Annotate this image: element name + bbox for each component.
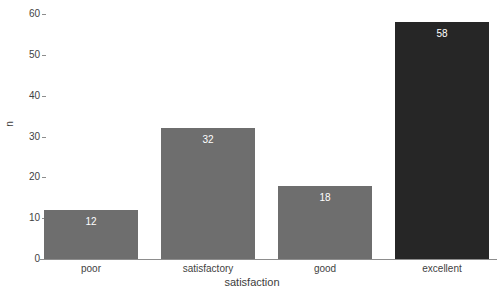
x-axis-tick-label: good <box>278 262 372 276</box>
bar-value-label: 18 <box>278 192 372 204</box>
bar[interactable]: 12 <box>44 210 138 259</box>
y-axis-tick-label: 20 <box>0 171 40 183</box>
x-axis-title: satisfaction <box>0 275 504 289</box>
x-axis-tick-label: satisfactory <box>161 262 255 276</box>
bar-value-label: 58 <box>395 28 489 40</box>
y-axis-tick-label: 60 <box>0 8 40 20</box>
x-axis-tick-label: excellent <box>395 262 489 276</box>
bar-value-label: 32 <box>161 134 255 146</box>
bar-value-label: 12 <box>44 216 138 228</box>
x-axis-tick-label: poor <box>44 262 138 276</box>
bar[interactable]: 18 <box>278 186 372 260</box>
x-axis-line <box>40 259 497 260</box>
bar[interactable]: 32 <box>161 128 255 259</box>
y-axis-tick-label: 30 <box>0 131 40 143</box>
y-axis-tick-label: 10 <box>0 212 40 224</box>
y-axis-tick-label: 50 <box>0 49 40 61</box>
y-axis-tick-label: 0 <box>0 253 40 265</box>
bar[interactable]: 58 <box>395 22 489 259</box>
y-axis-tick-label: 40 <box>0 90 40 102</box>
bar-chart: n 0102030405060 poorsatisfactorygoodexce… <box>0 0 504 291</box>
